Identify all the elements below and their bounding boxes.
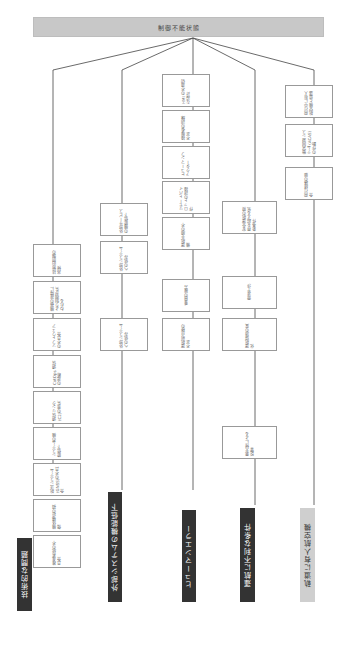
node-conditions-2: 運航環境の変化	[222, 318, 277, 351]
node-conditions-1: 電波干渉	[222, 276, 277, 309]
category-manned-aircraft: 軌道に有人航空機	[300, 508, 315, 602]
node-tech-3: CotOps 通信の遮断	[33, 355, 81, 388]
root-node: 制御不能状態	[33, 17, 324, 37]
node-tech-1: 機器の故障により制御が失われる	[33, 281, 81, 314]
root-title: 制御不能状態	[158, 23, 200, 32]
node-external-2: 外部システムへの依存	[100, 318, 148, 351]
node-tech-4: 通信リンク(C2)の喪失	[33, 391, 81, 424]
node-tech-0: 技術的問題の兆候	[33, 244, 81, 277]
category-technical: 技術的な問題	[17, 538, 32, 611]
node-tech-2: ソフトウェアの不具合	[33, 318, 81, 351]
node-conditions-3: 悪天候による影響	[222, 426, 277, 459]
node-human-3: リモートパイロットの誤操作	[162, 181, 210, 214]
node-human-2: ヒューマンファクター	[162, 146, 210, 179]
category-conditions: 運航に不利な条件	[240, 508, 255, 602]
node-manned-2: 飛行経路の競合	[285, 167, 333, 200]
node-tech-6: 航法システム(GNSS)の不具合	[33, 463, 81, 496]
node-human-1: 操縦者の訓練不足	[162, 110, 210, 143]
node-manned-0: 飛行中に有人航空機と遭遇	[285, 85, 333, 118]
node-tech-7: 機体構造の損傷	[33, 499, 81, 532]
category-external: 外部システムの機能低下	[108, 492, 122, 602]
node-external-0: 外部サービスの機能低下	[100, 203, 148, 236]
category-human-error: ヒューマンエラー	[182, 510, 196, 602]
node-external-1: 外部システムへの依存	[100, 241, 148, 274]
node-human-5: 乗員の疲労	[162, 279, 210, 312]
node-human-6: 運航前点検の不足	[162, 318, 210, 351]
node-conditions-0: 安全運航の限界を超える気象条件	[222, 201, 277, 234]
node-human-0: HMI の不適切な設計	[162, 74, 210, 107]
node-manned-1: 衝突回避システム (ACAS) の作動	[285, 124, 333, 157]
node-tech-5: システムの機能低下	[33, 427, 81, 460]
node-human-4: 運航手順の不備	[162, 217, 210, 250]
node-tech-8: 推進系統の不具合	[33, 535, 81, 568]
